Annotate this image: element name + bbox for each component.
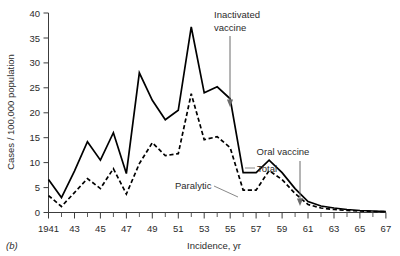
axes xyxy=(49,13,387,213)
annotation-oral-vaccine: Oral vaccine xyxy=(257,146,310,206)
x-tick-label: 65 xyxy=(355,223,366,234)
x-tick-label: 51 xyxy=(173,223,184,234)
oral-vaccine-arrow-head xyxy=(297,199,303,207)
x-tick-label: 43 xyxy=(69,223,80,234)
annotation-inactivated-vaccine: Inactivated vaccine xyxy=(214,9,260,107)
series-line-total xyxy=(49,27,386,212)
y-tick-label: 15 xyxy=(29,132,40,143)
y-tick-label: 25 xyxy=(29,82,40,93)
x-tick-label: 55 xyxy=(225,223,236,234)
y-tick-label: 40 xyxy=(29,8,40,19)
x-tick-label: 59 xyxy=(277,223,288,234)
x-tick-label: 63 xyxy=(329,223,340,234)
y-tick-label: 35 xyxy=(29,33,40,44)
y-tick-label: 30 xyxy=(29,57,40,68)
y-tick-label: 20 xyxy=(29,107,40,118)
y-axis-ticks xyxy=(44,13,49,213)
y-tick-label: 0 xyxy=(35,207,40,218)
paralytic-label: Paralytic xyxy=(175,180,212,191)
x-tick-label: 1941 xyxy=(38,223,59,234)
series-line-paralytic xyxy=(49,94,386,212)
x-tick-label: 57 xyxy=(251,223,262,234)
inactivated-vaccine-label-line2: vaccine xyxy=(214,22,246,33)
x-tick-label: 47 xyxy=(121,223,132,234)
incidence-line-chart: 0 5 10 15 20 25 30 35 40 xyxy=(0,0,400,256)
x-tick-label: 53 xyxy=(199,223,210,234)
total-label: Total xyxy=(257,163,277,174)
x-tick-label: 45 xyxy=(95,223,106,234)
y-axis-title: Cases / 100,000 population xyxy=(5,54,16,170)
x-axis-tick-labels: 1941 43 45 47 49 51 53 55 57 59 61 63 65… xyxy=(38,223,391,234)
inactivated-vaccine-label-line1: Inactivated xyxy=(214,9,260,20)
oral-vaccine-label: Oral vaccine xyxy=(257,146,310,157)
paralytic-leader-line xyxy=(214,186,238,197)
figure-panel: 0 5 10 15 20 25 30 35 40 xyxy=(0,0,400,256)
y-tick-label: 10 xyxy=(29,157,40,168)
annotation-paralytic: Paralytic xyxy=(175,180,238,197)
y-axis-tick-labels: 0 5 10 15 20 25 30 35 40 xyxy=(29,8,40,219)
x-axis-minor-ticks xyxy=(62,213,373,218)
panel-label: (b) xyxy=(6,240,18,251)
x-tick-label: 67 xyxy=(381,223,392,234)
x-tick-label: 49 xyxy=(147,223,158,234)
x-axis-title: Incidence, yr xyxy=(187,240,241,251)
y-tick-label: 5 xyxy=(35,182,40,193)
x-tick-label: 61 xyxy=(303,223,314,234)
